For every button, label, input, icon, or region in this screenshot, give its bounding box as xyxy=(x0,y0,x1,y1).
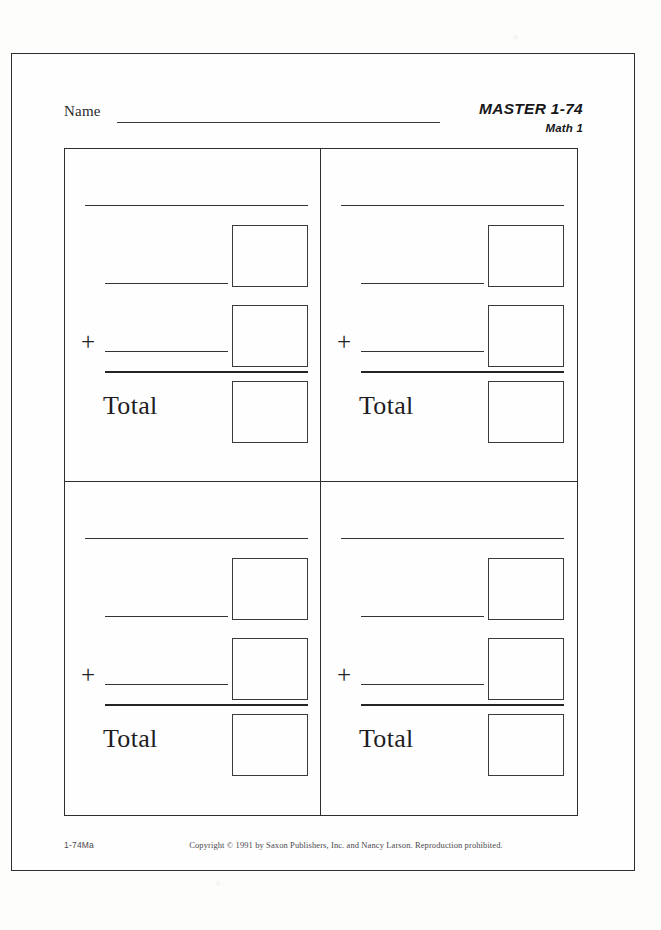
name-label: Name xyxy=(64,103,101,120)
master-number: MASTER 1-74 xyxy=(479,100,583,118)
answer-box-total[interactable] xyxy=(488,381,564,443)
answer-box-1[interactable] xyxy=(488,558,564,620)
copyright-notice: Copyright © 1991 by Saxon Publishers, In… xyxy=(12,840,636,850)
plus-icon: + xyxy=(337,329,351,354)
problem-cell-2: + Total xyxy=(321,149,577,482)
sum-rule xyxy=(105,371,308,373)
addend-line-3[interactable] xyxy=(105,351,228,352)
answer-box-2[interactable] xyxy=(232,305,308,367)
problem-cell-4: + Total xyxy=(321,482,577,815)
answer-box-2[interactable] xyxy=(488,638,564,700)
plus-icon: + xyxy=(81,329,95,354)
problem-cell-3: + Total xyxy=(65,482,321,815)
sum-rule xyxy=(361,371,564,373)
addend-line-2[interactable] xyxy=(105,283,228,284)
answer-box-total[interactable] xyxy=(232,381,308,443)
addend-line-3[interactable] xyxy=(105,684,228,685)
total-label: Total xyxy=(103,391,158,421)
worksheet-header: Name MASTER 1-74 Math 1 xyxy=(12,54,636,148)
total-label: Total xyxy=(359,391,414,421)
worksheet-page: Name MASTER 1-74 Math 1 + Total + Total xyxy=(11,53,635,871)
addend-line-2[interactable] xyxy=(361,283,484,284)
problem-grid: + Total + Total + xyxy=(64,148,578,816)
answer-box-1[interactable] xyxy=(232,225,308,287)
plus-icon: + xyxy=(337,662,351,687)
problem-cell-1: + Total xyxy=(65,149,321,482)
answer-box-1[interactable] xyxy=(488,225,564,287)
sum-rule xyxy=(105,704,308,706)
course-label: Math 1 xyxy=(545,122,583,134)
name-write-line[interactable] xyxy=(117,122,440,123)
addend-line-3[interactable] xyxy=(361,351,484,352)
addend-line-3[interactable] xyxy=(361,684,484,685)
answer-box-1[interactable] xyxy=(232,558,308,620)
answer-box-2[interactable] xyxy=(488,305,564,367)
addend-line-2[interactable] xyxy=(361,616,484,617)
answer-box-total[interactable] xyxy=(488,714,564,776)
plus-icon: + xyxy=(81,662,95,687)
answer-box-total[interactable] xyxy=(232,714,308,776)
addend-line-1[interactable] xyxy=(341,205,564,206)
master-code: 1-74Ma xyxy=(64,840,94,850)
sum-rule xyxy=(361,704,564,706)
total-label: Total xyxy=(103,724,158,754)
answer-box-2[interactable] xyxy=(232,638,308,700)
addend-line-1[interactable] xyxy=(85,538,308,539)
total-label: Total xyxy=(359,724,414,754)
addend-line-1[interactable] xyxy=(85,205,308,206)
addend-line-2[interactable] xyxy=(105,616,228,617)
addend-line-1[interactable] xyxy=(341,538,564,539)
